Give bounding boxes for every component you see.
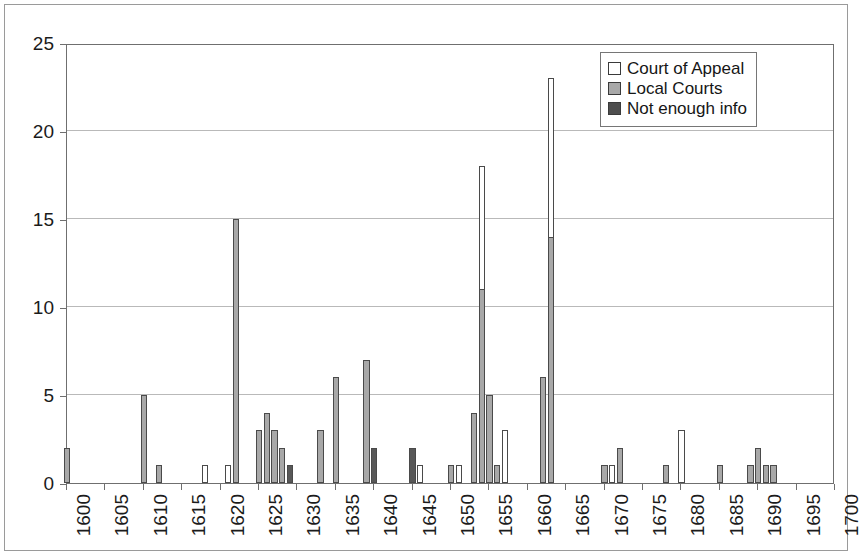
x-axis-tick-mark	[66, 484, 67, 490]
x-axis-tick-label: 1610	[151, 494, 170, 536]
x-axis-tick-mark	[296, 484, 297, 490]
bar-segment-local	[64, 448, 70, 483]
bar-stack	[363, 360, 369, 483]
x-axis-tick-label: 1650	[458, 494, 477, 536]
bar-segment-local	[471, 413, 477, 483]
bar-stack	[417, 465, 423, 483]
bar-stack	[409, 448, 415, 483]
bar-stack	[717, 465, 723, 483]
bar-segment-local	[256, 430, 262, 483]
legend-item-appeal: Court of Appeal	[608, 60, 747, 77]
bar-segment-noinfo	[371, 448, 377, 483]
bar-segment-appeal	[502, 430, 508, 483]
chart-legend: Court of AppealLocal CourtsNot enough in…	[600, 52, 757, 127]
y-axis-tick-label: 25	[12, 34, 54, 53]
y-axis-tick-label: 15	[12, 210, 54, 229]
bar-segment-noinfo	[287, 465, 293, 483]
x-axis-tick-mark	[642, 484, 643, 490]
legend-item-label: Not enough info	[627, 100, 747, 117]
bar-stack	[64, 448, 70, 483]
bar-stack	[678, 430, 684, 483]
x-axis-tick-label: 1680	[688, 494, 707, 536]
bar-stack	[271, 430, 277, 483]
bar-stack	[479, 166, 485, 483]
bar-segment-appeal	[678, 430, 684, 483]
bar-stack	[609, 465, 615, 483]
bar-segment-local	[448, 465, 454, 483]
x-axis-tick-mark	[258, 484, 259, 490]
bar-stack	[617, 448, 623, 483]
x-axis-tick-label: 1635	[343, 494, 362, 536]
bar-segment-local	[755, 448, 761, 483]
x-axis-tick-mark	[565, 484, 566, 490]
bar-segment-local	[264, 413, 270, 483]
bar-stack	[256, 430, 262, 483]
bar-segment-appeal	[548, 78, 554, 236]
x-axis-tick-mark	[488, 484, 489, 490]
legend-item-local: Local Courts	[608, 80, 747, 97]
x-axis-tick-label: 1625	[266, 494, 285, 536]
bar-segment-local	[747, 465, 753, 483]
x-axis-tick-label: 1690	[765, 494, 784, 536]
bar-stack	[540, 377, 546, 483]
bar-segment-local	[763, 465, 769, 483]
bar-stack	[264, 413, 270, 483]
bar-stack	[279, 448, 285, 483]
x-axis-tick-label: 1700	[842, 494, 861, 536]
y-axis-tick-label: 20	[12, 122, 54, 141]
bar-segment-appeal	[202, 465, 208, 483]
bar-segment-local	[317, 430, 323, 483]
bar-segment-local	[363, 360, 369, 483]
bar-stack	[770, 465, 776, 483]
x-axis-tick-mark	[220, 484, 221, 490]
bar-stack	[763, 465, 769, 483]
legend-swatch-icon	[608, 82, 621, 95]
bar-segment-appeal	[479, 166, 485, 289]
x-axis-tick-label: 1665	[573, 494, 592, 536]
x-axis-tick-mark	[181, 484, 182, 490]
bar-segment-local	[279, 448, 285, 483]
bar-segment-local	[617, 448, 623, 483]
x-axis-tick-mark	[143, 484, 144, 490]
bar-stack	[471, 413, 477, 483]
x-axis-tick-mark	[412, 484, 413, 490]
x-axis-tick-mark	[680, 484, 681, 490]
x-axis-tick-label: 1660	[535, 494, 554, 536]
x-axis-tick-label: 1675	[650, 494, 669, 536]
x-axis-tick-label: 1685	[727, 494, 746, 536]
bar-stack	[371, 448, 377, 483]
legend-swatch-icon	[608, 102, 621, 115]
bar-segment-local	[156, 465, 162, 483]
bar-segment-local	[233, 219, 239, 483]
legend-item-noinfo: Not enough info	[608, 100, 747, 117]
x-axis-tick-label: 1615	[189, 494, 208, 536]
x-axis-tick-label: 1605	[112, 494, 131, 536]
x-axis-tick-label: 1620	[228, 494, 247, 536]
x-axis-tick-mark	[604, 484, 605, 490]
bar-stack	[663, 465, 669, 483]
x-axis-tick-label: 1695	[804, 494, 823, 536]
x-axis-tick-label: 1600	[74, 494, 93, 536]
bar-segment-local	[770, 465, 776, 483]
bar-stack	[755, 448, 761, 483]
bar-stack	[333, 377, 339, 483]
x-axis-tick-mark	[757, 484, 758, 490]
bar-segment-appeal	[456, 465, 462, 483]
x-axis-tick-label: 1670	[612, 494, 631, 536]
bar-segment-appeal	[417, 465, 423, 483]
bar-stack	[156, 465, 162, 483]
bar-segment-local	[271, 430, 277, 483]
y-axis-tick-label: 10	[12, 298, 54, 317]
bar-segment-local	[601, 465, 607, 483]
bar-segment-local	[494, 465, 500, 483]
bar-stack	[317, 430, 323, 483]
bar-stack	[233, 219, 239, 483]
x-axis-tick-label: 1640	[381, 494, 400, 536]
x-axis-tick-label: 1630	[304, 494, 323, 536]
bar-segment-appeal	[609, 465, 615, 483]
x-axis-tick-mark	[796, 484, 797, 490]
bar-stack	[287, 465, 293, 483]
bar-segment-local	[548, 237, 554, 483]
legend-item-label: Local Courts	[627, 80, 722, 97]
